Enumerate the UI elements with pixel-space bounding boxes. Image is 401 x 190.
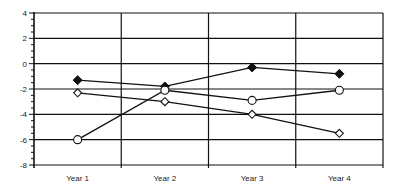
line-chart: 420-2-4-6-8 Year 1Year 2Year 3Year 4 [0, 0, 401, 190]
x-category-label: Year 2 [153, 174, 176, 183]
open-circle-marker [248, 96, 256, 104]
y-tick-label: -4 [20, 110, 28, 119]
filled-diamond-marker [73, 76, 82, 85]
y-tick-label: 2 [23, 34, 28, 43]
y-tick-label: 4 [23, 9, 28, 18]
y-tick-label: -2 [20, 85, 28, 94]
y-axis: 420-2-4-6-8 [20, 9, 34, 170]
y-tick-label: -6 [20, 136, 28, 145]
open-diamond-marker [74, 89, 82, 97]
open-circle-marker [335, 86, 343, 94]
open-diamond-marker [335, 129, 343, 137]
filled-diamond-marker [248, 63, 257, 72]
open-diamond-marker [161, 98, 169, 106]
x-category-label: Year 3 [241, 174, 264, 183]
open-circle-marker [74, 136, 82, 144]
x-category-label: Year 1 [66, 174, 89, 183]
y-tick-label: 0 [23, 60, 28, 69]
chart-grid [34, 13, 383, 168]
x-axis: Year 1Year 2Year 3Year 4 [66, 174, 351, 183]
filled-diamond-marker [335, 69, 344, 78]
x-category-label: Year 4 [328, 174, 351, 183]
open-circle-marker [161, 86, 169, 94]
y-tick-label: -8 [20, 161, 28, 170]
open-diamond-marker [248, 110, 256, 118]
